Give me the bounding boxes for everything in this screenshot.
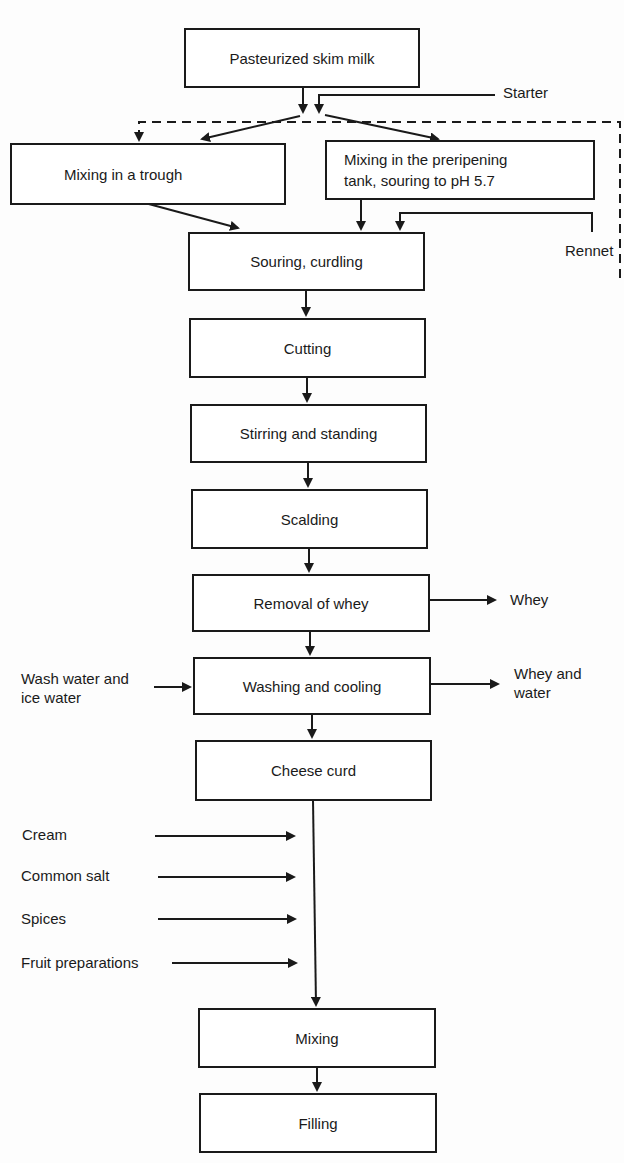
step-label: Filling [298, 1113, 337, 1134]
step-label: Mixing in the preripening tank, souring … [344, 149, 507, 191]
step-scalding: Scalding [191, 489, 428, 549]
input-fruit-preparations: Fruit preparations [21, 953, 139, 973]
label-line2: water [514, 684, 551, 701]
arrow-curd-to-mixing [313, 800, 316, 1005]
label-line1: Wash water and [21, 670, 129, 687]
step-label: Cutting [284, 338, 332, 359]
step-label: Pasteurized skim milk [229, 48, 374, 69]
step-mixing-preripening: Mixing in the preripening tank, souring … [325, 140, 595, 200]
flow-diagram: Pasteurized skim milk Mixing in a trough… [0, 0, 624, 1163]
step-pasteurized-skim-milk: Pasteurized skim milk [184, 28, 420, 88]
step-souring-curdling: Souring, curdling [188, 232, 425, 291]
step-label: Stirring and standing [240, 423, 378, 444]
step-cutting: Cutting [189, 318, 426, 378]
step-mixing-trough: Mixing in a trough [10, 143, 286, 205]
label-line1: Whey and [514, 665, 582, 682]
step-washing-cooling: Washing and cooling [193, 657, 431, 715]
input-starter: Starter [503, 83, 548, 103]
step-stirring-standing: Stirring and standing [190, 404, 427, 463]
step-label-line2: tank, souring to pH 5.7 [344, 172, 495, 189]
step-cheese-curd: Cheese curd [195, 740, 432, 801]
step-label: Cheese curd [271, 760, 356, 781]
output-whey-and-water: Whey and water [514, 664, 582, 702]
input-common-salt: Common salt [21, 866, 109, 886]
arrow-to-preripening [325, 115, 438, 139]
input-wash-water: Wash water and ice water [21, 669, 129, 707]
arrow-trough-to-souring [145, 203, 238, 228]
step-label-line1: Mixing in the preripening [344, 151, 507, 168]
arrow-starter [319, 95, 495, 112]
step-label: Washing and cooling [243, 676, 382, 697]
step-label: Removal of whey [253, 593, 368, 614]
arrow-to-trough [202, 116, 300, 139]
step-label: Mixing [295, 1028, 338, 1049]
step-mixing: Mixing [198, 1008, 436, 1068]
input-rennet: Rennet [565, 241, 613, 261]
input-cream: Cream [22, 825, 67, 845]
step-label: Scalding [281, 509, 339, 530]
label-line2: ice water [21, 689, 81, 706]
step-filling: Filling [199, 1093, 437, 1153]
output-whey: Whey [510, 590, 548, 610]
arrow-rennet [400, 213, 592, 232]
step-label: Souring, curdling [250, 251, 363, 272]
step-removal-of-whey: Removal of whey [192, 574, 430, 632]
input-spices: Spices [21, 909, 66, 929]
step-label: Mixing in a trough [64, 164, 182, 185]
